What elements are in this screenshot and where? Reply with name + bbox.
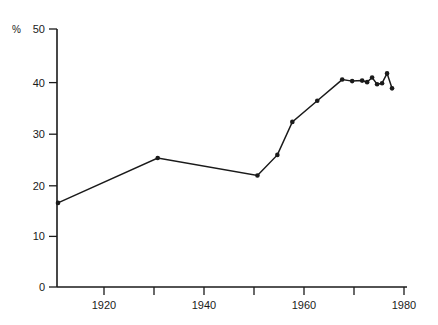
y-tick-label-0: 0 [39, 281, 45, 293]
y-tick-label-40: 40 [33, 77, 45, 89]
y-tick-label-30: 30 [33, 128, 45, 140]
y-tick-label-50: 50 [33, 23, 45, 35]
series-markers [56, 71, 395, 205]
data-point [370, 75, 375, 80]
x-tick-label-1980: 1980 [392, 299, 416, 311]
x-axis-ticks [104, 287, 404, 295]
data-point [380, 81, 385, 86]
data-point [315, 98, 320, 103]
data-point [360, 78, 365, 83]
y-axis-tick-labels: 50 40 30 20 10 0 [33, 23, 45, 293]
x-tick-label-1940: 1940 [192, 299, 216, 311]
y-axis-ticks [49, 29, 57, 287]
x-tick-label-1920: 1920 [92, 299, 116, 311]
data-point [390, 86, 395, 91]
data-point [340, 77, 345, 82]
data-point [375, 82, 380, 87]
y-axis-unit-label: % [12, 24, 21, 35]
y-tick-label-20: 20 [33, 180, 45, 192]
data-point [56, 201, 61, 206]
data-point [385, 71, 390, 76]
data-point [275, 153, 280, 158]
x-axis-tick-labels: 1920 1940 1960 1980 [92, 299, 416, 311]
y-tick-label-10: 10 [33, 230, 45, 242]
data-point [350, 79, 355, 84]
data-point [255, 173, 260, 178]
chart-page: % 50 40 30 20 10 0 [0, 0, 438, 325]
data-point [290, 120, 295, 125]
x-tick-label-1960: 1960 [292, 299, 316, 311]
data-point [155, 156, 160, 161]
line-chart: % 50 40 30 20 10 0 [0, 0, 438, 325]
data-point [365, 80, 370, 85]
series-line [58, 73, 392, 203]
